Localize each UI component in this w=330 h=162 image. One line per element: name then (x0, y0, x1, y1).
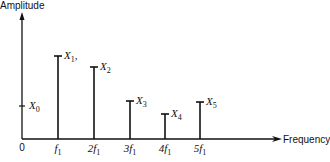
tick-0: 0 (19, 142, 25, 153)
tick-4f1: 4f1 (159, 142, 172, 157)
label-x4: X4 (171, 107, 182, 122)
label-x2: X2 (100, 60, 111, 75)
label-x0: X0 (29, 99, 40, 114)
label-x3: X3 (136, 94, 147, 109)
tick-f1: f1 (54, 142, 61, 157)
label-x1: X1, (64, 49, 77, 64)
tick-5f1: 5f1 (194, 142, 207, 157)
x-axis-label: Frequency (283, 134, 330, 145)
tick-3f1: 3f1 (124, 142, 137, 157)
label-x5: X5 (206, 95, 217, 110)
tick-2f1: 2f1 (88, 142, 101, 157)
